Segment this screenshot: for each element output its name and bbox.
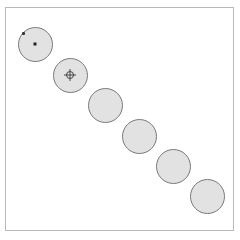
- draggable-disc-1[interactable]: [18, 27, 53, 62]
- draggable-disc-2[interactable]: [53, 58, 88, 93]
- center-dot-icon: [34, 43, 37, 46]
- draggable-disc-3[interactable]: [88, 88, 123, 123]
- resize-handle[interactable]: [22, 32, 25, 35]
- draggable-disc-5[interactable]: [156, 149, 191, 184]
- draggable-disc-4[interactable]: [122, 119, 157, 154]
- draggable-disc-6[interactable]: [190, 179, 225, 214]
- crosshair-icon: [66, 71, 74, 79]
